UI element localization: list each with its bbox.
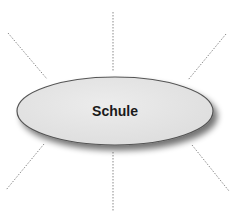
connector-bottom-left	[6, 144, 44, 190]
mind-map-canvas: Schule	[0, 0, 243, 224]
connector-bottom-right	[192, 145, 229, 191]
connector-top-left	[8, 33, 47, 79]
center-node-label: Schule	[92, 103, 138, 119]
connector-top-right	[188, 34, 226, 80]
